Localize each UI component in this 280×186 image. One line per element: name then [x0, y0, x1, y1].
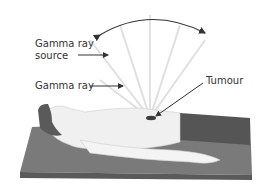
label-line-1: Gamma ray	[35, 38, 94, 50]
tumour-label: Tumour	[206, 75, 243, 87]
gamma-ray-source-label: Gamma ray source	[35, 38, 94, 62]
legs	[180, 113, 250, 145]
gamma-knife-diagram	[0, 0, 280, 186]
tumour-marker	[146, 116, 156, 120]
patient-body	[45, 106, 180, 150]
rotation-arc-arrow	[100, 19, 205, 35]
gamma-ray-label: Gamma ray	[35, 80, 94, 92]
label-line-2: source	[35, 50, 94, 62]
